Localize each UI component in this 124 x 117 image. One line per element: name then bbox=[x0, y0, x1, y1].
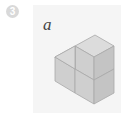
cube-stack-figure bbox=[0, 0, 124, 117]
